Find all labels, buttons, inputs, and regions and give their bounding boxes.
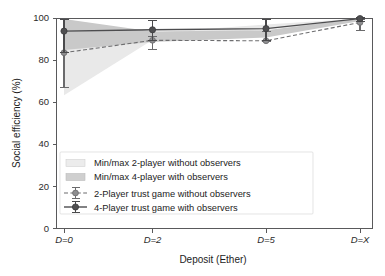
- legend-label-series-4player: 4-Player trust game with observers: [94, 203, 238, 213]
- legend-label-series-2player: 2-Player trust game without observers: [94, 189, 251, 199]
- y-axis-tick-labels: 0 20 40 60 80 100: [33, 12, 49, 233]
- chart-canvas: 0 20 40 60 80 100 D=0 D=2 D=5 D=X Deposi…: [0, 0, 385, 276]
- y-axis-title: Social efficiency (%): [11, 78, 22, 168]
- legend-label-minmax-2player: Min/max 2-player without observers: [94, 158, 241, 168]
- y-axis-ticks: [53, 18, 57, 229]
- x-axis-title: Deposit (Ether): [179, 254, 246, 265]
- y-tick-label-100: 100: [33, 12, 49, 23]
- y-tick-label-60: 60: [38, 96, 49, 107]
- y-tick-label-80: 80: [38, 54, 49, 65]
- legend-label-minmax-4player: Min/max 4-player with observers: [94, 172, 228, 182]
- y-tick-label-40: 40: [38, 138, 49, 149]
- chart-legend: Min/max 2-player without observers Min/m…: [60, 152, 313, 214]
- x-tick-label-dx: D=X: [351, 234, 370, 245]
- x-tick-label-d5: D=5: [257, 234, 275, 245]
- x-axis-ticks: [64, 229, 360, 233]
- y-tick-label-0: 0: [44, 223, 49, 234]
- x-axis-tick-labels: D=0 D=2 D=5 D=X: [55, 234, 370, 245]
- y-tick-label-20: 20: [38, 181, 49, 192]
- x-tick-label-d2: D=2: [144, 234, 162, 245]
- x-tick-label-d0: D=0: [55, 234, 73, 245]
- chart-figure: 0 20 40 60 80 100 D=0 D=2 D=5 D=X Deposi…: [0, 0, 385, 276]
